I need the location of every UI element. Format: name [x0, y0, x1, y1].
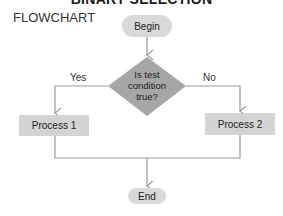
decision-line-3: true? [117, 91, 177, 102]
yes-label: Yes [70, 72, 86, 83]
end-label: End [138, 191, 156, 202]
process-2-label: Process 2 [218, 119, 262, 130]
no-label: No [203, 72, 216, 83]
decision-node: Is test condition true? [117, 69, 177, 102]
decision-line-1: Is test [117, 69, 177, 80]
process-1-label: Process 1 [32, 120, 76, 131]
process-2-node: Process 2 [205, 113, 275, 135]
decision-line-2: condition [117, 80, 177, 91]
begin-node: Begin [122, 15, 172, 37]
end-node: End [128, 188, 166, 204]
begin-label: Begin [134, 21, 160, 32]
process-1-node: Process 1 [19, 115, 89, 136]
